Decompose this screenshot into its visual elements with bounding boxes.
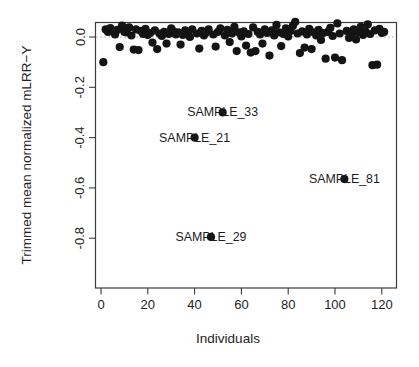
x-tick-label-0: 0 — [97, 297, 104, 312]
data-point — [364, 20, 372, 28]
data-point — [322, 55, 330, 63]
data-point — [212, 42, 220, 50]
point-label-sample-29: SAMPLE_29 — [176, 230, 247, 244]
data-point — [336, 29, 344, 37]
data-point — [277, 42, 285, 50]
data-point — [308, 45, 316, 53]
y-tick-label-3: -0.6 — [73, 177, 88, 199]
data-point — [99, 58, 107, 66]
data-point — [352, 35, 360, 43]
y-tick-label-0: 0.0 — [73, 28, 88, 46]
data-point — [300, 43, 308, 51]
y-tick-label-1: -0.2 — [73, 76, 88, 98]
scatter-plot-figure: 0.0 -0.2 -0.4 -0.6 -0.8 0 20 40 60 80 10… — [0, 0, 419, 367]
data-point — [176, 40, 184, 48]
data-point — [272, 21, 280, 29]
point-label-sample-21: SAMPLE_21 — [159, 131, 230, 145]
x-tick-label-5: 100 — [324, 297, 346, 312]
x-tick-label-3: 60 — [234, 297, 248, 312]
plot-svg: 0.0 -0.2 -0.4 -0.6 -0.8 0 20 40 60 80 10… — [0, 0, 419, 367]
point-label-sample-81: SAMPLE_81 — [309, 172, 380, 186]
data-point — [258, 39, 266, 47]
data-point — [317, 36, 325, 44]
x-axis-title: Individuals — [196, 331, 260, 346]
data-point — [380, 28, 388, 36]
data-point — [162, 39, 170, 47]
point-label-sample-33: SAMPLE_33 — [187, 105, 258, 119]
data-point — [265, 52, 273, 60]
data-point — [233, 47, 241, 55]
data-point — [134, 46, 142, 54]
y-tick-label-2: -0.4 — [73, 126, 88, 148]
data-point — [373, 61, 381, 69]
data-point — [216, 24, 224, 32]
data-point — [291, 18, 299, 26]
y-axis-title: Trimmed mean normalized mLRR−Y — [19, 46, 34, 265]
x-tick-label-6: 120 — [371, 297, 393, 312]
data-point — [338, 56, 346, 64]
data-point — [153, 45, 161, 53]
x-tick-label-2: 40 — [187, 297, 201, 312]
data-point — [195, 44, 203, 52]
data-point — [331, 54, 339, 62]
data-point — [333, 19, 341, 27]
data-point — [125, 23, 133, 31]
data-point — [226, 38, 234, 46]
data-point — [242, 41, 250, 49]
data-point — [116, 43, 124, 51]
x-tick-label-4: 80 — [281, 297, 295, 312]
data-point — [329, 32, 337, 40]
data-point — [251, 47, 259, 55]
y-tick-label-4: -0.8 — [73, 227, 88, 249]
data-point — [326, 24, 334, 32]
data-point — [186, 33, 194, 41]
x-tick-label-1: 20 — [141, 297, 155, 312]
